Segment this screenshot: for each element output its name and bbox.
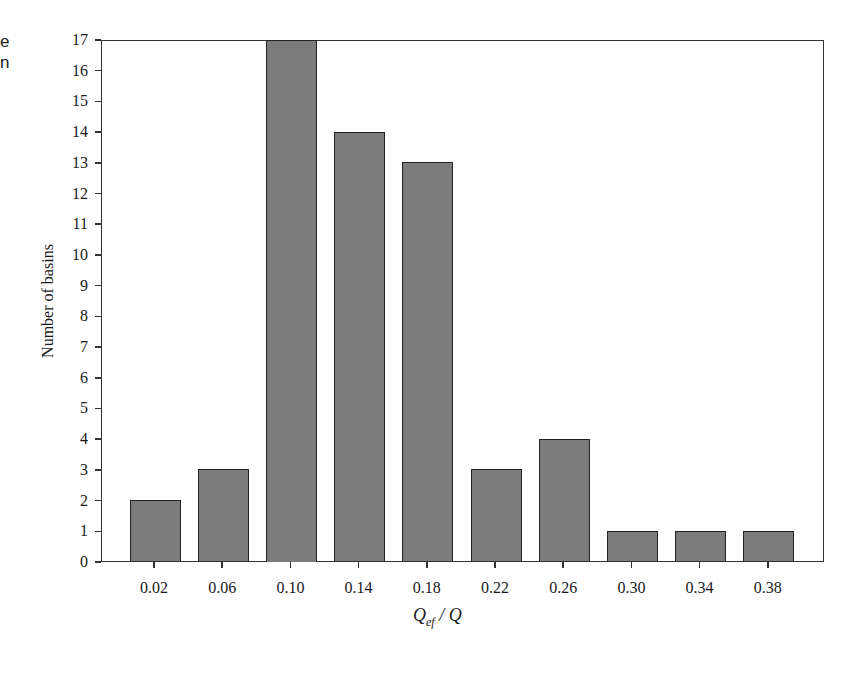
x-tick bbox=[358, 562, 360, 568]
y-tick-label: 12 bbox=[48, 186, 88, 202]
y-tick-label: 17 bbox=[48, 32, 88, 48]
x-tick-label: 0.22 bbox=[465, 580, 525, 596]
plot-area bbox=[101, 40, 824, 562]
y-tick-label: 2 bbox=[48, 493, 88, 509]
y-tick-label: 3 bbox=[48, 462, 88, 478]
x-axis-title: Qef / Q bbox=[413, 605, 462, 630]
page-text-fragment-1: e bbox=[0, 33, 9, 50]
x-tick bbox=[426, 562, 428, 568]
bar-0.18 bbox=[402, 162, 453, 561]
y-tick-label: 14 bbox=[48, 124, 88, 140]
x-tick bbox=[767, 562, 769, 568]
x-tick-label: 0.26 bbox=[533, 580, 593, 596]
bar-0.26 bbox=[539, 439, 590, 562]
bar-0.02 bbox=[130, 500, 181, 561]
x-tick-label: 0.06 bbox=[192, 580, 252, 596]
bar-0.34 bbox=[675, 531, 726, 562]
y-tick-label: 15 bbox=[48, 93, 88, 109]
y-tick-label: 16 bbox=[48, 63, 88, 79]
y-tick-label: 5 bbox=[48, 400, 88, 416]
x-tick bbox=[494, 562, 496, 568]
bar-0.38 bbox=[743, 531, 794, 562]
x-tick bbox=[221, 562, 223, 568]
x-title-q2: Q bbox=[449, 605, 462, 625]
bar-0.30 bbox=[607, 531, 658, 562]
x-tick-label: 0.38 bbox=[738, 580, 798, 596]
y-tick-label: 11 bbox=[48, 216, 88, 232]
x-tick-label: 0.02 bbox=[124, 580, 184, 596]
x-tick-label: 0.30 bbox=[601, 580, 661, 596]
x-tick bbox=[631, 562, 633, 568]
bar-0.14 bbox=[334, 132, 385, 562]
x-tick bbox=[153, 562, 155, 568]
y-tick-label: 13 bbox=[48, 155, 88, 171]
y-tick-label: 4 bbox=[48, 431, 88, 447]
x-tick bbox=[562, 562, 564, 568]
x-tick-label: 0.14 bbox=[329, 580, 389, 596]
x-tick-label: 0.34 bbox=[670, 580, 730, 596]
bar-0.10 bbox=[266, 40, 317, 562]
bar-0.06 bbox=[198, 469, 249, 561]
page-text-fragment-2: n bbox=[0, 54, 9, 71]
x-tick-label: 0.18 bbox=[397, 580, 457, 596]
y-tick-label: 1 bbox=[48, 523, 88, 539]
y-tick-label: 6 bbox=[48, 370, 88, 386]
x-tick bbox=[699, 562, 701, 568]
x-title-sub: ef bbox=[426, 615, 435, 629]
x-title-sep: / bbox=[435, 605, 449, 625]
x-title-q1: Q bbox=[413, 605, 426, 625]
y-tick-label: 0 bbox=[48, 554, 88, 570]
y-axis-title: Number of basins bbox=[39, 244, 57, 358]
bar-0.22 bbox=[471, 469, 522, 561]
x-tick-label: 0.10 bbox=[260, 580, 320, 596]
x-tick bbox=[290, 562, 292, 568]
